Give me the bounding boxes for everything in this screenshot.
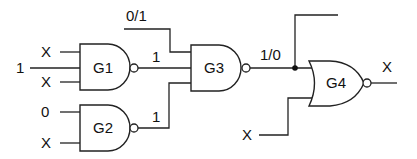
gate-label-g2: G2 (93, 119, 113, 136)
gate-label-g3: G3 (204, 59, 224, 76)
g2-input-label-top: 0 (41, 103, 49, 120)
g3-output-label: 1/0 (260, 46, 281, 63)
g1-input-label-bot: X (41, 73, 51, 90)
g4-inversion-bubble (363, 79, 371, 87)
g2-input-label-bot: X (41, 134, 51, 151)
junction-dot (292, 65, 298, 71)
logic-circuit: G1 G2 G3 G4 X 1 X 0 X 1 1 0/1 1/0 X X (0, 0, 417, 159)
g3-input-label-top: 0/1 (126, 7, 147, 24)
g2-inversion-bubble (130, 124, 138, 132)
g2-output-wire (138, 83, 191, 128)
gate-label-g4: G4 (326, 74, 346, 91)
g3-fanout-branch (295, 15, 338, 68)
g4-input-wire-bot (259, 98, 314, 135)
g1-input-label-top: X (41, 43, 51, 60)
g2-output-label: 1 (152, 108, 160, 125)
g1-output-label: 1 (152, 48, 160, 65)
g4-output-label: X (382, 58, 392, 75)
g1-input-label-mid: 1 (16, 59, 24, 76)
gate-label-g1: G1 (93, 59, 113, 76)
g1-inversion-bubble (130, 64, 138, 72)
g4-input-label-bot: X (242, 126, 252, 143)
g3-inversion-bubble (242, 64, 250, 72)
